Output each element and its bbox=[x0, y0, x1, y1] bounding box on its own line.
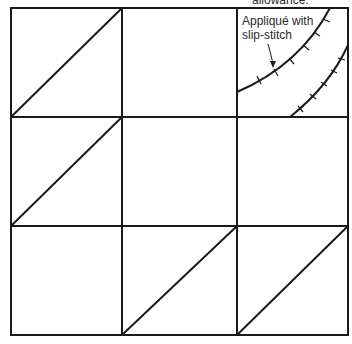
diagonal-r0c0 bbox=[11, 8, 122, 117]
diagonal-r2c2 bbox=[237, 226, 348, 335]
top-label-partial: allowance. bbox=[252, 0, 309, 7]
diagonal-r1c0 bbox=[11, 117, 122, 226]
grid-lines bbox=[11, 8, 348, 335]
callout-label-line2: slip-stitch bbox=[242, 28, 292, 42]
diagonal-r2c1 bbox=[122, 226, 237, 335]
triangle-diagonals bbox=[11, 8, 348, 335]
callout-arrowhead-icon bbox=[270, 61, 276, 68]
callout-label-line1: Appliqué with bbox=[242, 14, 313, 28]
quilt-block-diagram: allowance. Appliqué with slip-stitch bbox=[0, 0, 352, 344]
block-border bbox=[11, 8, 348, 335]
